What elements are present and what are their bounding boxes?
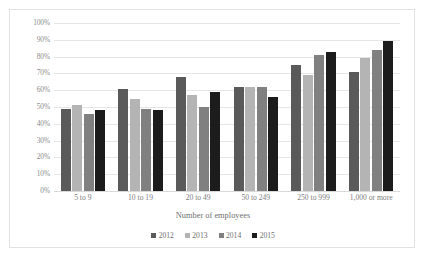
chart-legend: 2012201320142015: [10, 232, 416, 240]
x-axis-tick-label: 50 to 249: [227, 194, 285, 202]
legend-item-2013[interactable]: 2013: [185, 232, 208, 240]
bar-2015-20-to-49: [210, 92, 220, 191]
legend-swatch-icon: [151, 233, 156, 238]
bar-group: [169, 23, 227, 191]
legend-swatch-icon: [252, 233, 257, 238]
x-axis-labels: 5 to 910 to 1920 to 4950 to 249250 to 99…: [54, 194, 400, 208]
bar-2014-50-to-249: [257, 87, 267, 191]
bar-2015-50-to-249: [268, 97, 278, 191]
legend-item-2012[interactable]: 2012: [151, 232, 174, 240]
bar-2015-1-000-or-more: [383, 41, 393, 191]
chart-frame: 100%90%80%70%60%50%40%30%20%10%0% 5 to 9…: [9, 9, 415, 248]
y-axis-tick-label: 0%: [16, 187, 50, 194]
bar-2012-5-to-9: [61, 109, 71, 191]
bar-2012-10-to-19: [118, 89, 128, 191]
legend-label: 2013: [192, 232, 207, 240]
y-axis: 100%90%80%70%60%50%40%30%20%10%0%: [14, 23, 50, 191]
y-axis-tick-label: 30%: [16, 137, 50, 144]
legend-item-2015[interactable]: 2015: [252, 232, 275, 240]
legend-swatch-icon: [219, 233, 224, 238]
bar-group: [285, 23, 343, 191]
legend-label: 2014: [226, 232, 241, 240]
bar-2014-20-to-49: [199, 107, 209, 191]
bar-2012-1-000-or-more: [349, 72, 359, 191]
bar-group: [227, 23, 285, 191]
x-axis-tick-label: 1,000 or more: [342, 194, 400, 202]
bar-2013-10-to-19: [130, 99, 140, 191]
x-axis-line: [54, 191, 400, 192]
bar-2015-10-to-19: [153, 110, 163, 191]
y-axis-tick-label: 70%: [16, 69, 50, 76]
bar-group: [112, 23, 170, 191]
bar-2013-250-to-999: [303, 75, 313, 191]
y-axis-tick-label: 100%: [16, 19, 50, 26]
bar-2015-5-to-9: [95, 110, 105, 191]
bar-2013-5-to-9: [72, 105, 82, 191]
legend-item-2014[interactable]: 2014: [219, 232, 242, 240]
bar-2014-10-to-19: [141, 109, 151, 191]
bar-2014-5-to-9: [84, 114, 94, 191]
x-axis-title: Number of employees: [10, 211, 416, 220]
bar-group: [54, 23, 112, 191]
y-axis-tick-label: 50%: [16, 103, 50, 110]
bar-2014-1-000-or-more: [372, 50, 382, 191]
bar-2015-250-to-999: [326, 52, 336, 191]
x-axis-tick-label: 250 to 999: [285, 194, 343, 202]
bar-group: [342, 23, 400, 191]
y-axis-tick-label: 20%: [16, 153, 50, 160]
y-axis-tick-label: 10%: [16, 170, 50, 177]
x-axis-tick-label: 10 to 19: [112, 194, 170, 202]
bar-2013-1-000-or-more: [360, 58, 370, 191]
bar-2013-50-to-249: [245, 87, 255, 191]
legend-swatch-icon: [185, 233, 190, 238]
x-axis-tick-label: 5 to 9: [54, 194, 112, 202]
bar-2014-250-to-999: [314, 55, 324, 191]
y-axis-tick-label: 80%: [16, 53, 50, 60]
y-axis-tick-label: 60%: [16, 86, 50, 93]
bar-2013-20-to-49: [187, 95, 197, 191]
bars-layer: [54, 23, 400, 191]
bar-2012-20-to-49: [176, 77, 186, 191]
bar-2012-250-to-999: [291, 65, 301, 191]
y-axis-tick-label: 40%: [16, 120, 50, 127]
x-axis-tick-label: 20 to 49: [169, 194, 227, 202]
legend-label: 2012: [159, 232, 174, 240]
y-axis-tick-label: 90%: [16, 36, 50, 43]
legend-label: 2015: [260, 232, 275, 240]
bar-2012-50-to-249: [234, 87, 244, 191]
